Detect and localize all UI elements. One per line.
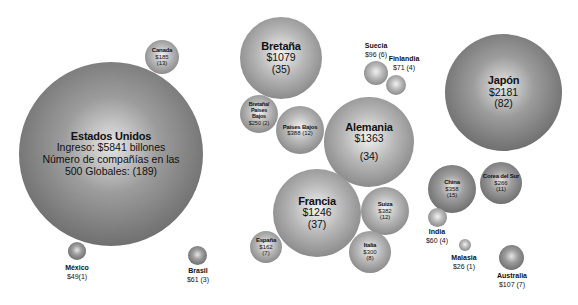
bubble-finlandia <box>386 75 406 95</box>
bubble-india <box>428 208 447 227</box>
bubble-label: Japón <box>488 75 519 87</box>
bubble-paises-bajos: Paises Bajos $388 (12) <box>276 106 324 154</box>
label-finlandia: Finlandia $71 (4) <box>389 55 420 73</box>
bubble-suecia <box>364 61 388 85</box>
bubble-mexico <box>68 242 86 260</box>
bubble-value: $382 <box>378 208 391 215</box>
bubble-francia: Francia $1246 (37) <box>273 169 361 257</box>
bubble-canada: Canada $185 (13) <box>145 40 179 74</box>
bubble-value: $250 (2) <box>249 120 270 126</box>
bubble-value: $266 <box>494 180 507 187</box>
bubble-count: (12) <box>380 214 391 221</box>
bubble-bretana-paises-bajos: Bretaña/ Paises Bajos $250 (2) <box>240 95 278 133</box>
bubble-estados-unidos: Estados Unidos Ingreso: $5841 billones N… <box>19 62 203 246</box>
bubble-count: (34) <box>360 151 379 163</box>
bubble-value: $388 (12) <box>287 130 313 137</box>
bubble-companies-count: 500 Globales: (189) <box>65 166 157 178</box>
label-australia: Australia $107 (7) <box>497 272 527 290</box>
bubble-china: China $358 (15) <box>428 165 476 213</box>
bubble-malasia <box>459 239 471 251</box>
bubble-count: (7) <box>262 250 269 257</box>
bubble-value: $185 <box>155 54 168 61</box>
bubble-espana: España $162 (7) <box>250 231 282 263</box>
bubble-count: (82) <box>494 98 513 110</box>
label-india: India $60 (4) <box>426 228 448 246</box>
bubble-japon: Japón $2181 (82) <box>445 34 562 151</box>
label-brasil: Brasil $61 (3) <box>187 267 209 285</box>
bubble-italia: Italia $300 (8) <box>349 231 391 273</box>
bubble-companies-text: Número de compañías en las <box>42 154 179 166</box>
bubble-suiza: Suiza $382 (12) <box>361 187 409 235</box>
label-malasia: Malasia $26 (1) <box>451 254 476 272</box>
bubble-chart: Estados Unidos Ingreso: $5841 billones N… <box>0 0 578 305</box>
bubble-bretana: Bretaña $1079 (35) <box>240 17 322 99</box>
bubble-brasil <box>188 246 207 265</box>
bubble-count: (15) <box>447 192 458 199</box>
bubble-value: $358 <box>445 186 458 193</box>
bubble-value: $300 <box>363 249 376 256</box>
bubble-count: (11) <box>496 186 506 193</box>
bubble-australia <box>499 245 524 270</box>
bubble-count: (13) <box>157 60 168 67</box>
label-suecia: Suecia $96 (6) <box>365 42 388 60</box>
label-mexico: México $49(1) <box>65 264 89 282</box>
bubble-corea-del-sur: Corea del Sur $266 (11) <box>480 162 522 204</box>
bubble-count: (8) <box>366 255 373 262</box>
bubble-value: $1363 <box>354 133 383 145</box>
bubble-value: $162 <box>259 244 272 251</box>
bubble-count: (37) <box>308 219 327 231</box>
bubble-count: (35) <box>272 64 291 76</box>
